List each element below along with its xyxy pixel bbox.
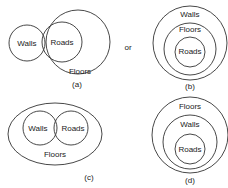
- walls-label-b: Walls: [180, 10, 199, 19]
- diagram-d: Floors Walls Roads (d): [152, 97, 228, 185]
- or-connector: or: [124, 43, 131, 52]
- roads-label-d: Roads: [178, 145, 201, 154]
- diagram-b: Walls Floors Roads (b): [153, 6, 227, 91]
- floors-label-d: Floors: [179, 102, 201, 111]
- diagram-a: Walls Roads Floors (a): [9, 10, 110, 89]
- caption-d: (d): [185, 176, 195, 185]
- walls-label-c: Walls: [28, 124, 47, 133]
- floors-label-a: Floors: [69, 67, 91, 76]
- caption-b: (b): [185, 82, 195, 91]
- caption-c: (c): [84, 173, 94, 182]
- walls-label-a: Walls: [17, 39, 36, 48]
- diagram-c: Walls Roads Floors (c): [8, 103, 102, 182]
- caption-a: (a): [72, 80, 82, 89]
- floors-label-c: Floors: [44, 150, 66, 159]
- venn-diagrams: Walls Roads Floors (a) or Walls Floors R…: [0, 0, 228, 188]
- roads-label-b: Roads: [178, 47, 201, 56]
- walls-label-d: Walls: [180, 120, 199, 129]
- roads-label-a: Roads: [50, 38, 73, 47]
- roads-label-c: Roads: [61, 124, 84, 133]
- floors-label-b: Floors: [179, 25, 201, 34]
